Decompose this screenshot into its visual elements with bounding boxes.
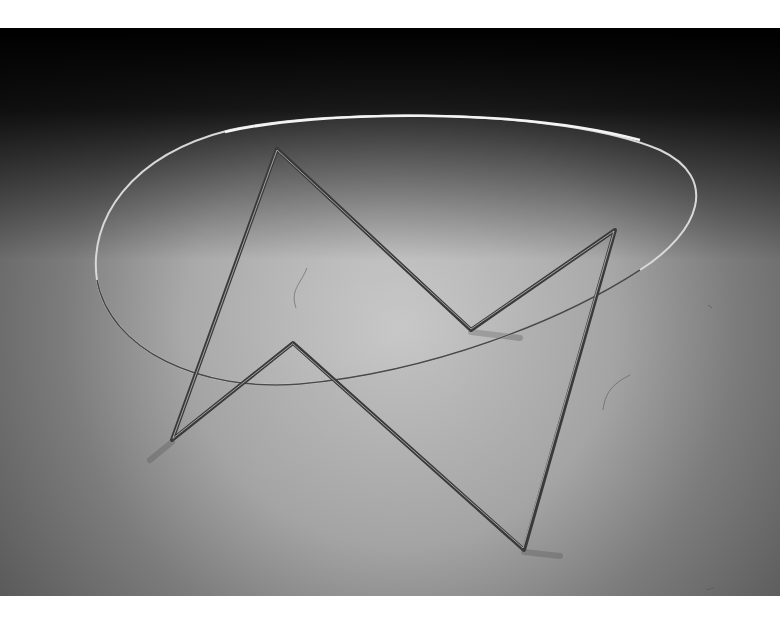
table-illustration xyxy=(0,28,780,596)
table-photograph: Glass-topped table on zig-zag wire frame xyxy=(0,28,780,596)
